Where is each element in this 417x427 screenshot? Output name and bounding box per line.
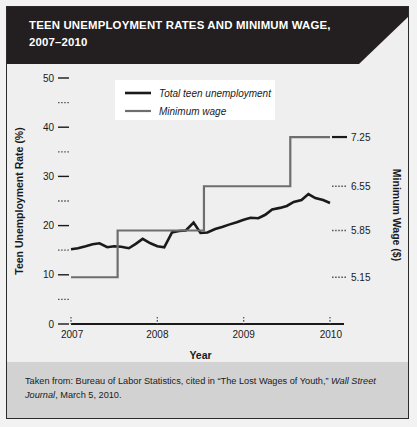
chart-title-line1: TEEN UNEMPLOYMENT RATES AND MINIMUM WAGE… bbox=[29, 17, 349, 34]
y2-axis-tick-label: 6.55 bbox=[351, 181, 371, 192]
x-axis-tick-label: 2008 bbox=[146, 329, 169, 340]
y-axis-tick-label: 0 bbox=[48, 319, 54, 330]
y2-axis-tick-label: 5.15 bbox=[351, 272, 371, 283]
chart-title-line2: 2007–2010 bbox=[29, 34, 349, 51]
y2-axis-title: Minimum Wage ($) bbox=[391, 169, 403, 261]
y2-axis-tick-label: 7.25 bbox=[351, 132, 371, 143]
x-axis-tick-label: 2007 bbox=[61, 329, 84, 340]
legend-label-1: Minimum wage bbox=[159, 106, 227, 117]
x-axis-tick-label: 2010 bbox=[320, 329, 343, 340]
chart-plot-area: 010203040505.155.856.557.252007200820092… bbox=[7, 64, 409, 363]
y-axis-tick-label: 10 bbox=[43, 269, 55, 280]
y-axis-tick-label: 30 bbox=[43, 171, 55, 182]
source-caption: Taken from: Bureau of Labor Statistics, … bbox=[25, 375, 393, 402]
figure-card: TEEN UNEMPLOYMENT RATES AND MINIMUM WAGE… bbox=[6, 6, 409, 419]
legend-label-0: Total teen unemployment bbox=[159, 88, 272, 99]
chart-title: TEEN UNEMPLOYMENT RATES AND MINIMUM WAGE… bbox=[29, 17, 349, 50]
y2-axis-tick-label: 5.85 bbox=[351, 225, 371, 236]
caption-part1: Taken from: Bureau of Labor Statistics, … bbox=[25, 376, 331, 386]
y-axis-tick-label: 50 bbox=[43, 73, 55, 84]
chart-svg: 010203040505.155.856.557.252007200820092… bbox=[7, 64, 409, 363]
series-line-minimum-wage bbox=[71, 137, 330, 277]
source-footer: Taken from: Bureau of Labor Statistics, … bbox=[7, 362, 409, 418]
x-axis-tick-label: 2009 bbox=[233, 329, 256, 340]
y-axis-tick-label: 40 bbox=[43, 122, 55, 133]
y-axis-title: Teen Unemployment Rate (%) bbox=[13, 127, 25, 274]
series-line-unemployment bbox=[71, 194, 330, 249]
x-axis-title: Year bbox=[189, 349, 211, 361]
caption-part2: , March 5, 2010. bbox=[55, 390, 121, 400]
y-axis-tick-label: 20 bbox=[43, 220, 55, 231]
